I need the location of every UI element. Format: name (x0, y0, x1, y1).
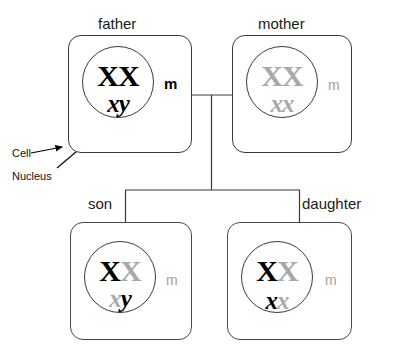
nucleus-mother: XX xx (246, 46, 318, 118)
chromosomes-upper-father: XX (83, 61, 153, 91)
chromosomes-lower-father: xy (83, 91, 153, 116)
chromosome-upper-left-son: X (99, 254, 120, 287)
marker-mother: m (328, 78, 340, 92)
label-father: father (98, 16, 136, 31)
cell-father[interactable]: XX xy m (68, 35, 192, 153)
label-son: son (88, 196, 112, 211)
chromosome-lower-left-daughter: x (266, 287, 278, 314)
chromosomes-lower-mother: xx (247, 91, 317, 116)
cell-son[interactable]: XX xy m (70, 222, 192, 340)
marker-son: m (166, 273, 178, 287)
pedigree-diagram: father XX xy m mother XX xx m son (0, 0, 395, 360)
chromosome-upper-right-father: X (118, 59, 139, 92)
chromosomes-upper-son: XX (85, 256, 155, 286)
chromosome-lower-right-son: y (121, 285, 131, 312)
chromosome-upper-left-mother: X (261, 59, 282, 92)
chromosome-lower-right-mother: x (282, 90, 294, 117)
chromosome-upper-left-father: X (97, 59, 118, 92)
label-mother: mother (258, 16, 305, 31)
marker-daughter: m (325, 273, 337, 287)
chromosomes-upper-mother: XX (247, 61, 317, 91)
chromosome-lower-right-father: y (119, 90, 129, 117)
cell-daughter[interactable]: XX xx m (227, 222, 352, 340)
chromosomes-upper-daughter: XX (242, 256, 312, 286)
chromosome-upper-left-daughter: X (256, 254, 277, 287)
annotation-nucleus-label: Nucleus (12, 171, 52, 182)
cell-mother[interactable]: XX xx m (232, 35, 352, 153)
nucleus-son: XX xy (84, 241, 156, 313)
marker-father: m (164, 76, 177, 91)
chromosomes-lower-son: xy (85, 286, 155, 311)
chromosome-lower-left-mother: x (271, 90, 283, 117)
chromosome-lower-left-son: x (109, 285, 121, 312)
label-daughter: daughter (302, 196, 361, 211)
chromosome-upper-right-daughter: X (277, 254, 298, 287)
chromosome-upper-right-son: X (120, 254, 141, 287)
chromosome-lower-left-father: x (107, 90, 119, 117)
chromosome-upper-right-mother: X (282, 59, 303, 92)
nucleus-daughter: XX xx (241, 241, 313, 313)
annotation-cell-label: Cell (12, 148, 31, 159)
nucleus-father: XX xy (82, 46, 154, 118)
chromosomes-lower-daughter: xx (242, 288, 312, 313)
chromosome-lower-right-daughter: x (277, 287, 289, 314)
